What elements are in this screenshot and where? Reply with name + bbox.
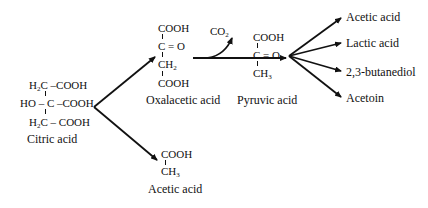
bond [162, 34, 163, 39]
arrow-to-butanediol [289, 56, 341, 71]
arrow-to-acetic-lower [94, 107, 157, 160]
product-lactic-acid: Lactic acid [346, 37, 399, 49]
pyruvic-line-2: C = O [253, 49, 280, 61]
arrow-co2-release [208, 38, 232, 58]
citric-row-1: H2C –COOH [29, 79, 87, 91]
oxalacetic-acid-label: Oxalacetic acid [146, 94, 220, 106]
citric-acid-label: Citric acid [27, 133, 77, 145]
co2-label: CO2 [210, 25, 229, 37]
oxalacetic-line-2: C = O [158, 40, 185, 52]
bond [257, 43, 258, 48]
bond [162, 71, 163, 76]
oxalacetic-line-1: COOH [158, 22, 189, 34]
arrow-to-acetoin [289, 56, 341, 97]
acetic-acid-lower-label: Acetic acid [148, 183, 202, 195]
product-butanediol: 2,3-butanediol [346, 66, 416, 78]
bond [162, 52, 163, 57]
oxalacetic-line-3: CH2 [158, 58, 177, 70]
acetic-lower-line-1: COOH [161, 148, 192, 160]
acetic-lower-line-2: CH3 [161, 165, 180, 177]
bond [45, 109, 46, 114]
oxalacetic-line-4: COOH [158, 77, 189, 89]
citric-row-2: HO – C –COOH [20, 97, 94, 109]
citric-row-3: H2C – COOH [29, 116, 90, 128]
bond [45, 91, 46, 96]
pyruvic-acid-label: Pyruvic acid [237, 94, 297, 106]
pyruvic-line-3: CH3 [253, 67, 272, 79]
pyruvic-line-1: COOH [253, 31, 284, 43]
product-acetoin: Acetoin [346, 92, 384, 104]
product-acetic-acid: Acetic acid [346, 11, 400, 23]
bond [257, 61, 258, 66]
